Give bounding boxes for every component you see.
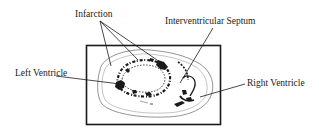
infarction-leader-3 bbox=[100, 21, 160, 62]
right-ventricle-wall bbox=[174, 62, 195, 107]
label-right-ventricle: Right Ventricle bbox=[247, 79, 305, 89]
infarction-leader-2 bbox=[100, 21, 138, 60]
label-infarction: Infarction bbox=[75, 10, 112, 20]
heart-cross-section-figure bbox=[0, 0, 319, 133]
left-ventricle-wall bbox=[115, 58, 170, 97]
right-ventricle-leader bbox=[200, 84, 245, 97]
label-left-ventricle: Left Ventricle bbox=[15, 69, 67, 79]
septum-leader bbox=[180, 28, 213, 83]
label-interventricular-septum: Interventricular Septum bbox=[165, 17, 255, 27]
